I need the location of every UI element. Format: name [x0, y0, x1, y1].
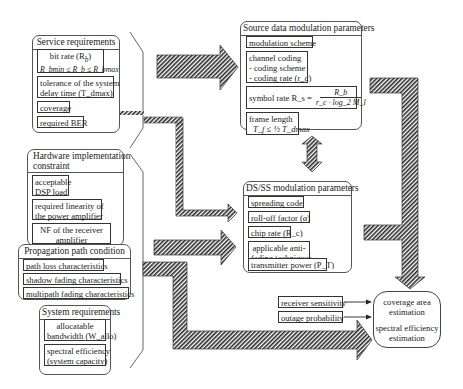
- receiver-sensitivity-box: receiver sensitivity: [278, 296, 343, 308]
- bit-rate-range: R_bmin ≤ R_b ≤ R_bmax: [40, 65, 101, 75]
- allocatable-bandwidth-box: allocatable bandwidth (W_allo): [44, 319, 106, 341]
- delay-tolerance-box: tolerance of the system delay time (T_dm…: [37, 76, 114, 98]
- coverage-box: coverage: [37, 101, 70, 113]
- system-requirements-title: System requirements: [40, 306, 110, 320]
- shadow-fading-box: shadow fading characteristics: [23, 273, 121, 285]
- chip-rate-box: chip rate (R_c): [248, 226, 291, 238]
- arrow-hardware-to-dsss: [154, 230, 236, 265]
- modulation-scheme-box: modulation scheme: [246, 36, 313, 48]
- estimation-box: coverage area estimation spectral effici…: [373, 291, 441, 348]
- frame-length-box: frame length T_f ≤ ½ T_dmax: [246, 112, 299, 135]
- multipath-fading-box: multipath fading characteristics: [23, 287, 129, 299]
- spreading-code-box: spreading code: [248, 196, 304, 208]
- propagation-condition-title: Propagation path condition: [19, 245, 130, 259]
- source-modulation-title: Source data modulation parameters: [241, 22, 361, 36]
- required-ber-box: required BER: [37, 116, 84, 128]
- service-requirements-title: Service requirements: [33, 36, 119, 50]
- amplifier-linearity-box: required linearity of the power amplifie…: [32, 199, 102, 220]
- bit-rate-box: bit rate (Rb) R_bmin ≤ R_b ≤ R_bmax: [37, 49, 104, 73]
- arrow-source-dsss-bidirectional: [302, 136, 322, 172]
- path-loss-box: path loss characteristics: [23, 259, 104, 271]
- arrow-brace-to-dsss: [176, 118, 237, 222]
- receiver-nf-box: NF of the receiver amplifier: [32, 223, 111, 244]
- channel-coding-box: channel coding - coding scheme - coding …: [246, 51, 308, 83]
- dsss-modulation-title: DS/SS modulation parameters: [244, 182, 351, 196]
- hardware-constraint-title: Hardware implementation: [33, 151, 121, 161]
- outage-probability-box: outage probability: [278, 311, 343, 323]
- spectral-efficiency-box: spectral efficiency (system capacity): [44, 344, 106, 366]
- arrow-params-to-estimation: [364, 78, 425, 289]
- dsp-load-box: acceptable DSP load: [32, 175, 69, 196]
- brace-lower: [130, 154, 143, 368]
- symbol-rate-box: symbol rate R_s = R_b r_c · log_2 M_l: [246, 86, 357, 109]
- transmitter-power-box: transmitter power (P_T): [248, 258, 327, 271]
- rolloff-factor-box: roll-off factor (α): [248, 211, 310, 223]
- arrow-service-to-source: [157, 45, 238, 90]
- brace-upper: [130, 32, 143, 148]
